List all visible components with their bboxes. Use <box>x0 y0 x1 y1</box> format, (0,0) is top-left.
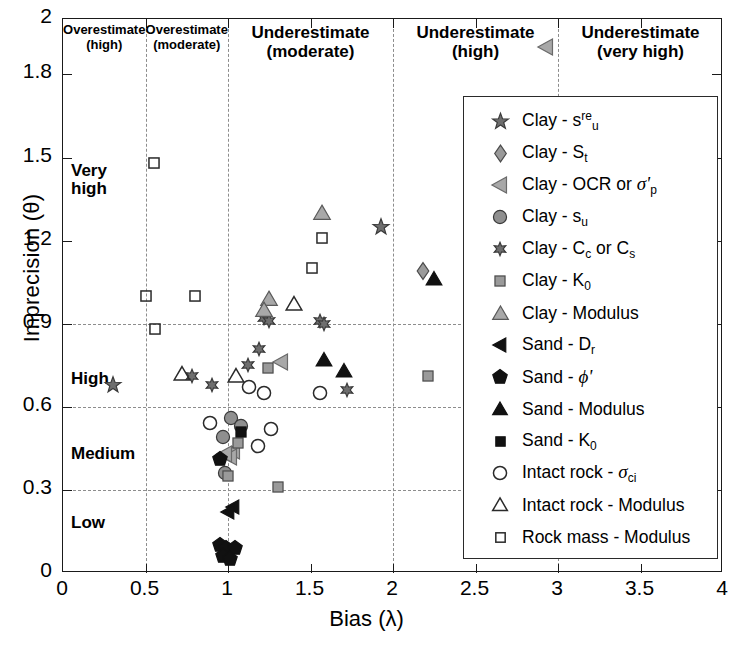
y-tick <box>63 241 72 242</box>
y-tick <box>63 158 72 159</box>
zone-label-line2: (high) <box>63 38 146 53</box>
legend-marker-icon <box>478 274 522 288</box>
x-tick-label: 1.5 <box>280 576 340 600</box>
chart-root: Imprecision (θ) Bias (λ) Overestimate(hi… <box>0 0 733 645</box>
legend-item-label: Clay - Modulus <box>522 303 639 324</box>
data-point <box>373 218 390 235</box>
legend-item-label: Clay - sreu <box>522 109 599 133</box>
zone-label-line2: (high) <box>393 42 558 61</box>
legend-item[interactable]: Rock mass - Modulus <box>464 521 717 553</box>
legend-marker-icon <box>478 401 522 417</box>
legend-item[interactable]: Intact rock - σci <box>464 457 717 489</box>
legend-item[interactable]: Clay - Cc or Cs <box>464 233 717 265</box>
data-point <box>215 429 231 445</box>
legend-item-label: Clay - St <box>522 142 588 165</box>
data-point <box>263 421 279 437</box>
data-point <box>147 156 161 170</box>
data-point <box>286 296 303 313</box>
x-tick <box>311 564 312 573</box>
legend-marker-icon <box>478 113 522 130</box>
legend-item[interactable]: Intact rock - Modulus <box>464 489 717 521</box>
legend-box: Clay - sreuClay - StClay - OCR or σ'pCla… <box>463 96 718 559</box>
legend-item-label: Sand - Modulus <box>522 399 645 420</box>
legend-item-label: Sand - Dr <box>522 334 595 357</box>
legend-item[interactable]: Clay - St <box>464 137 717 169</box>
data-point <box>252 342 266 356</box>
legend-item[interactable]: Clay - su <box>464 201 717 233</box>
zone-label: Overestimate(high) <box>63 23 146 52</box>
gridline-vertical <box>228 19 229 571</box>
zone-label: Underestimate(moderate) <box>228 23 393 61</box>
legend-item[interactable]: Clay - sreu <box>464 105 717 137</box>
x-tick <box>476 564 477 573</box>
zone-label: Underestimate(very high) <box>558 23 723 61</box>
data-point <box>421 369 435 383</box>
y-tick <box>63 74 72 75</box>
data-point <box>220 504 236 520</box>
zone-label-line2: (very high) <box>558 42 723 61</box>
y-tick-label: 2 <box>0 4 52 28</box>
y-tick-label: 0.3 <box>0 475 52 499</box>
band-label-line: high <box>71 180 107 199</box>
data-point <box>305 261 319 275</box>
zone-label-line2: (moderate) <box>146 38 229 53</box>
data-point <box>256 385 272 401</box>
legend-item[interactable]: Clay - K0 <box>464 265 717 297</box>
data-point <box>312 385 328 401</box>
data-point <box>205 378 219 392</box>
data-point <box>261 361 275 375</box>
legend-item[interactable]: Sand - Dr <box>464 329 717 361</box>
legend-item[interactable]: Sand - ϕ' <box>464 361 717 393</box>
x-tick-label: 2 <box>362 576 422 600</box>
data-point <box>335 362 352 379</box>
zone-label-line2: (moderate) <box>228 42 393 61</box>
legend-item-label: Clay - K0 <box>522 270 591 293</box>
y-tick <box>63 407 72 408</box>
x-tick <box>641 564 642 573</box>
legend-item-label: Rock mass - Modulus <box>522 527 690 548</box>
x-tick <box>558 564 559 573</box>
data-point <box>104 376 121 393</box>
x-tick <box>146 564 147 573</box>
legend-item[interactable]: Clay - OCR or σ'p <box>464 169 717 201</box>
legend-marker-icon <box>478 497 522 513</box>
legend-item-label: Intact rock - Modulus <box>522 495 684 516</box>
y-tick-right <box>712 74 721 75</box>
legend-marker-icon <box>478 242 522 256</box>
legend-marker-icon <box>478 305 522 322</box>
data-point <box>426 271 443 288</box>
x-tick-label: 2.5 <box>445 576 505 600</box>
legend-marker-icon <box>478 465 522 481</box>
data-point <box>315 351 332 368</box>
data-point <box>234 425 248 439</box>
y-tick-label: 1.5 <box>0 143 52 167</box>
band-label-line: Very <box>71 162 107 181</box>
data-point <box>255 301 273 319</box>
data-point <box>537 38 555 56</box>
band-label-line: Medium <box>71 445 135 464</box>
legend-marker-icon <box>478 176 522 194</box>
data-point <box>212 451 228 467</box>
data-point <box>271 480 285 494</box>
legend-item-label: Clay - su <box>522 206 588 229</box>
legend-marker-icon <box>478 531 522 544</box>
legend-item[interactable]: Sand - K0 <box>464 425 717 457</box>
zone-label-line1: Underestimate <box>558 23 723 42</box>
legend-item[interactable]: Clay - Modulus <box>464 297 717 329</box>
band-label: Medium <box>71 445 135 464</box>
band-label: Low <box>71 514 105 533</box>
legend-item-label: Clay - Cc or Cs <box>522 238 635 261</box>
data-point <box>188 289 202 303</box>
zone-label: Underestimate(high) <box>393 23 558 61</box>
legend-item[interactable]: Sand - Modulus <box>464 393 717 425</box>
band-label-line: Low <box>71 514 105 533</box>
data-point <box>202 415 218 431</box>
legend-marker-icon <box>478 337 522 353</box>
x-tick-label: 3 <box>527 576 587 600</box>
legend-item-label: Clay - OCR or σ'p <box>522 173 657 197</box>
x-tick-label: 1 <box>197 576 257 600</box>
data-point <box>222 551 238 567</box>
data-point <box>317 317 331 331</box>
zone-label-line1: Overestimate <box>63 23 146 38</box>
data-point <box>221 469 235 483</box>
